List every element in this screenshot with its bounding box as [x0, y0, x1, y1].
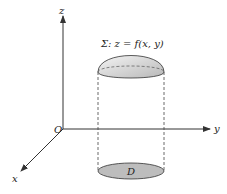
y-axis-label: y: [213, 123, 220, 134]
diagram-canvas: z y x O Σ: z = f(x, y) D: [0, 0, 227, 194]
origin-label: O: [54, 124, 62, 135]
x-axis-label: x: [12, 173, 18, 184]
z-axis-label: z: [58, 5, 65, 16]
surface-label: Σ: z = f(x, y): [100, 38, 164, 49]
x-axis: [21, 129, 63, 171]
surface-cap: [98, 56, 164, 79]
region-label: D: [126, 166, 135, 177]
